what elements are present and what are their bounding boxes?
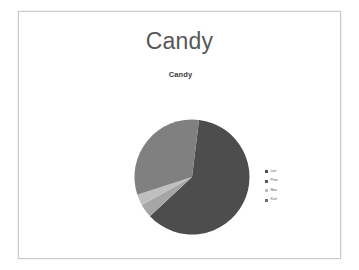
legend-swatch-icon xyxy=(265,199,268,202)
legend-item[interactable]: Lori xyxy=(265,167,317,177)
legend-swatch-icon xyxy=(265,170,268,173)
legend-swatch-icon xyxy=(265,189,268,192)
legend-item-label: Pete xyxy=(270,179,277,183)
legend-item-label: Max xyxy=(270,189,277,193)
legend-item[interactable]: Kurt xyxy=(265,196,317,206)
slide-title: Candy xyxy=(19,30,340,53)
chart-title: Candy xyxy=(31,70,330,79)
slide-frame: Candy Candy LoriPeteMaxKurt xyxy=(18,11,341,259)
pie-svg xyxy=(134,119,250,235)
legend-item[interactable]: Max xyxy=(265,186,317,196)
pie-chart[interactable]: Candy LoriPeteMaxKurt xyxy=(31,64,330,254)
pie-slice-group xyxy=(134,120,249,235)
legend-swatch-icon xyxy=(265,180,268,183)
chart-legend[interactable]: LoriPeteMaxKurt xyxy=(265,167,317,205)
legend-item-label: Kurt xyxy=(270,198,277,202)
pie-graphic[interactable] xyxy=(134,119,250,235)
legend-item-label: Lori xyxy=(270,170,276,174)
legend-item[interactable]: Pete xyxy=(265,177,317,187)
